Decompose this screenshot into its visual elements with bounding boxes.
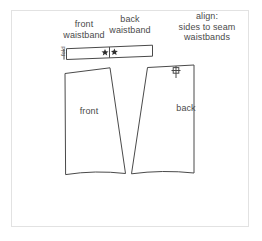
label-align-note: align: sides to seam waistbands [163, 11, 251, 43]
label-back-waistband: back waistband [104, 14, 156, 35]
label-front-waistband: front waistband [58, 19, 110, 40]
label-back-piece: back [164, 103, 208, 114]
label-front-piece: front [67, 106, 111, 117]
back-notch-icon [172, 66, 181, 78]
label-fold: fold [58, 40, 69, 62]
back-piece-outline [132, 65, 195, 174]
diagram-canvas: front waistband back waistband align: si… [0, 0, 262, 241]
front-piece-outline [65, 68, 126, 175]
